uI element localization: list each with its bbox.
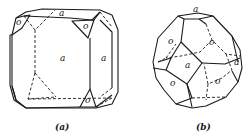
face-label-o-upper-right: o [209, 37, 215, 47]
crystal-b: a o o a a o o [153, 4, 242, 108]
face-label-o-upper-left: o [168, 36, 174, 46]
face-label-o-top-right: o [83, 21, 89, 31]
face-label-o-bottom-right: o [85, 95, 91, 105]
face-label-a-front: a [60, 53, 65, 63]
face-label-o-top-left: o [16, 17, 22, 27]
face-label-a-center: a [185, 60, 190, 70]
caption-a: (a) [55, 122, 69, 132]
face-label-a-top: a [59, 8, 64, 18]
face-label-a-top: a [193, 4, 198, 14]
crystal-figure: a o o a a o (a) a o o a a o [0, 0, 243, 138]
crystal-a: a o o a a o [10, 8, 118, 108]
face-label-o-lower-left: o [170, 78, 176, 88]
face-label-o-lower-right: o [215, 76, 221, 86]
face-label-a-right: a [234, 57, 239, 67]
caption-b: (b) [196, 122, 211, 132]
face-label-a-right: a [101, 53, 106, 63]
